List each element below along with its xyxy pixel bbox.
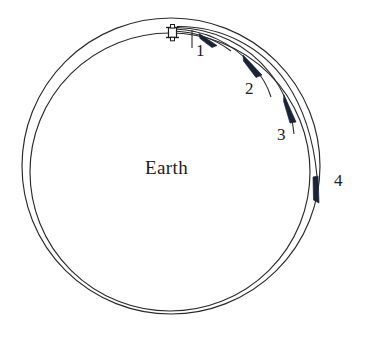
burn-label-2: 2 [245, 80, 254, 97]
burn-label-4: 4 [334, 172, 343, 189]
transfer-arrowhead-2 [243, 55, 262, 78]
transfer-arrowhead-4 [313, 176, 319, 203]
burn-label-1: 1 [196, 42, 205, 59]
burn-label-3: 3 [277, 126, 286, 143]
orbital-transfer-diagram: Earth 1 2 3 4 [0, 0, 365, 339]
satellite-icon [166, 25, 179, 41]
central-body-label: Earth [145, 157, 188, 179]
